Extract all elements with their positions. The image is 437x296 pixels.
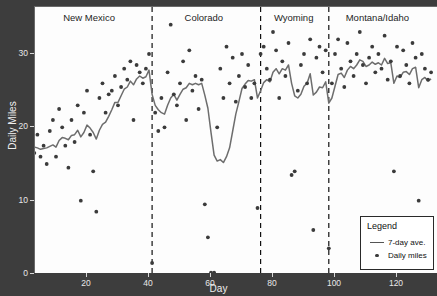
data-point xyxy=(392,169,396,173)
data-point xyxy=(361,63,365,67)
data-point xyxy=(246,63,250,67)
region-label: New Mexico xyxy=(63,12,115,23)
y-tick-label: 0 xyxy=(8,268,28,278)
legend-entry-label: 7-day ave. xyxy=(388,238,425,247)
data-point xyxy=(57,107,61,111)
data-point xyxy=(132,118,136,122)
data-point xyxy=(194,74,198,78)
data-point xyxy=(355,52,359,56)
data-point xyxy=(70,118,74,122)
data-point xyxy=(315,56,319,60)
data-point xyxy=(256,206,260,210)
data-point xyxy=(404,63,408,67)
data-point xyxy=(54,155,58,159)
data-point xyxy=(51,118,55,122)
data-point xyxy=(85,89,89,93)
data-point xyxy=(346,41,350,45)
data-point xyxy=(265,67,269,71)
data-point xyxy=(231,56,235,60)
data-point xyxy=(36,133,40,137)
data-point xyxy=(147,52,151,56)
data-point xyxy=(408,81,412,85)
data-point xyxy=(367,56,371,60)
data-point xyxy=(429,70,433,74)
data-point xyxy=(79,199,83,203)
data-point xyxy=(76,103,80,107)
line-swatch-icon xyxy=(366,242,388,244)
legend-entry-label: Daily miles xyxy=(388,251,427,260)
data-point xyxy=(88,133,92,137)
y-tick-mark xyxy=(30,273,34,274)
data-point xyxy=(163,125,167,129)
data-point xyxy=(330,81,334,85)
data-point xyxy=(383,34,387,38)
data-point xyxy=(166,70,170,74)
data-point xyxy=(293,169,297,173)
data-point xyxy=(364,81,368,85)
data-point xyxy=(290,173,294,177)
data-point xyxy=(218,67,222,71)
y-tick-label: 10 xyxy=(8,195,28,205)
data-point xyxy=(411,41,415,45)
data-point xyxy=(336,37,340,41)
data-point xyxy=(237,74,241,78)
data-point xyxy=(259,52,263,56)
data-point xyxy=(184,118,188,122)
data-point xyxy=(200,78,204,82)
data-point xyxy=(318,45,322,49)
data-point xyxy=(222,96,226,100)
data-point xyxy=(175,103,179,107)
data-point xyxy=(110,89,114,93)
dot-swatch-icon xyxy=(366,254,388,257)
data-point xyxy=(215,125,219,129)
data-point xyxy=(206,235,210,239)
data-point xyxy=(181,59,185,63)
data-point xyxy=(135,63,139,67)
data-point xyxy=(253,81,257,85)
data-point xyxy=(153,111,157,115)
data-point xyxy=(63,144,67,148)
data-point xyxy=(35,151,36,155)
data-point xyxy=(104,111,108,115)
data-point xyxy=(138,70,142,74)
data-point xyxy=(243,85,247,89)
data-point xyxy=(339,67,343,71)
data-point xyxy=(150,261,154,265)
data-point xyxy=(380,67,384,71)
data-point xyxy=(389,59,393,63)
y-tick-label: 20 xyxy=(8,121,28,131)
chart-figure: Daily Miles 0102030 New MexicoColoradoWy… xyxy=(0,0,437,296)
x-tick-mark xyxy=(334,273,335,277)
region-label: Montana/Idaho xyxy=(346,12,409,23)
seven-day-average-line xyxy=(35,58,431,162)
data-point xyxy=(42,144,46,148)
data-point xyxy=(249,96,253,100)
legend-entry-7-day-ave: 7-day ave. xyxy=(366,236,428,249)
legend-entry-daily-miles: Daily miles xyxy=(366,249,428,262)
y-tick-label: 30 xyxy=(8,48,28,58)
data-point xyxy=(203,202,207,206)
data-point xyxy=(352,74,356,78)
data-point xyxy=(327,246,331,250)
data-point xyxy=(156,129,160,133)
data-point xyxy=(141,81,145,85)
data-point xyxy=(116,103,120,107)
region-label: Colorado xyxy=(185,12,224,23)
data-point xyxy=(119,85,123,89)
data-point xyxy=(321,70,325,74)
data-point xyxy=(144,67,148,71)
data-point xyxy=(212,271,216,274)
data-point xyxy=(308,37,312,41)
data-point xyxy=(125,78,129,82)
data-point xyxy=(60,125,64,129)
region-divider-lines xyxy=(152,7,329,274)
data-point xyxy=(386,78,390,82)
data-point xyxy=(398,74,402,78)
data-point xyxy=(333,52,337,56)
data-point xyxy=(197,107,201,111)
data-point xyxy=(287,41,291,45)
x-tick-mark xyxy=(86,273,87,277)
data-point xyxy=(129,59,133,63)
data-point xyxy=(94,210,98,214)
data-point xyxy=(426,78,430,82)
